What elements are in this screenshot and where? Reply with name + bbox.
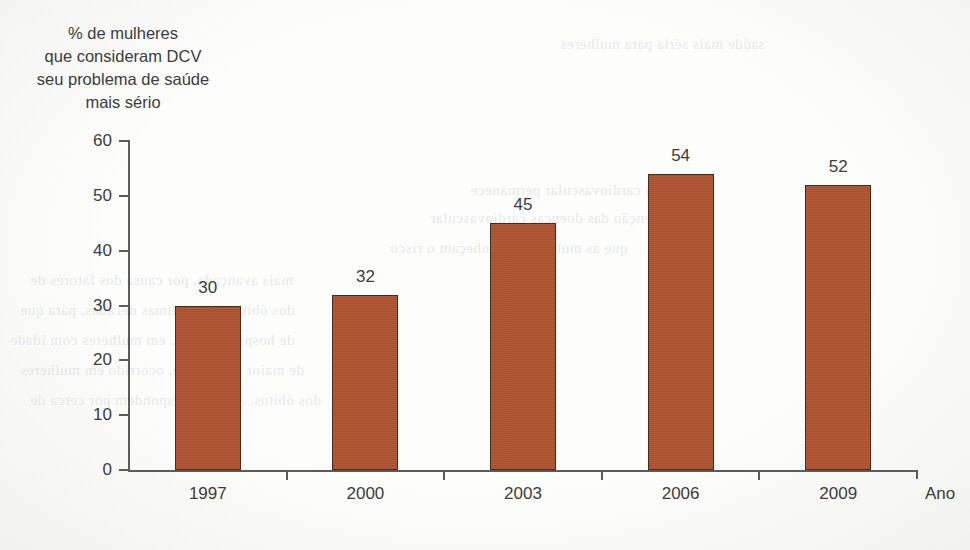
bar-chart: % de mulheres que consideram DCV seu pro… <box>0 0 970 550</box>
y-axis-tick <box>119 359 129 361</box>
y-axis-tick-label: 50 <box>60 186 112 206</box>
y-axis-tick <box>119 414 129 416</box>
y-axis-tick <box>119 469 129 471</box>
y-axis-tick-label: 20 <box>60 350 112 370</box>
y-axis-tick-label: 0 <box>60 460 112 480</box>
y-axis-title: % de mulheres que consideram DCV seu pro… <box>8 22 238 114</box>
x-axis-line <box>128 470 918 472</box>
x-axis-tick-label: 2009 <box>778 484 898 504</box>
y-axis-title-line: que consideram DCV <box>8 45 238 68</box>
y-axis-title-line: % de mulheres <box>8 22 238 45</box>
bar <box>648 174 714 470</box>
y-axis-tick-label: 40 <box>60 241 112 261</box>
bar <box>175 306 241 471</box>
bar-value-label: 30 <box>148 278 268 298</box>
y-axis-tick <box>119 140 129 142</box>
x-axis-end-tick <box>916 470 918 479</box>
x-axis-tick <box>443 471 445 480</box>
y-axis-title-line: seu problema de saúde <box>8 68 238 91</box>
x-axis-tick <box>286 471 288 480</box>
x-axis-title: Ano <box>925 484 955 504</box>
bar-value-label: 32 <box>305 267 425 287</box>
y-axis-tick-label: 30 <box>60 296 112 316</box>
x-axis-tick-label: 2006 <box>621 484 741 504</box>
y-axis-title-line: mais sério <box>8 91 238 114</box>
y-axis-tick <box>119 195 129 197</box>
y-axis-tick-label: 10 <box>60 405 112 425</box>
y-axis-tick <box>119 305 129 307</box>
y-axis-tick <box>119 250 129 252</box>
bar <box>332 295 398 470</box>
bar <box>805 185 871 470</box>
x-axis-tick-label: 2003 <box>463 484 583 504</box>
x-axis-tick-label: 2000 <box>305 484 425 504</box>
x-axis-tick <box>758 471 760 480</box>
bar-value-label: 52 <box>778 157 898 177</box>
bar-value-label: 54 <box>621 146 741 166</box>
x-axis-tick-label: 1997 <box>148 484 268 504</box>
bar-value-label: 45 <box>463 195 583 215</box>
x-axis-tick <box>601 471 603 480</box>
bar <box>490 223 556 470</box>
y-axis-tick-label: 60 <box>60 131 112 151</box>
